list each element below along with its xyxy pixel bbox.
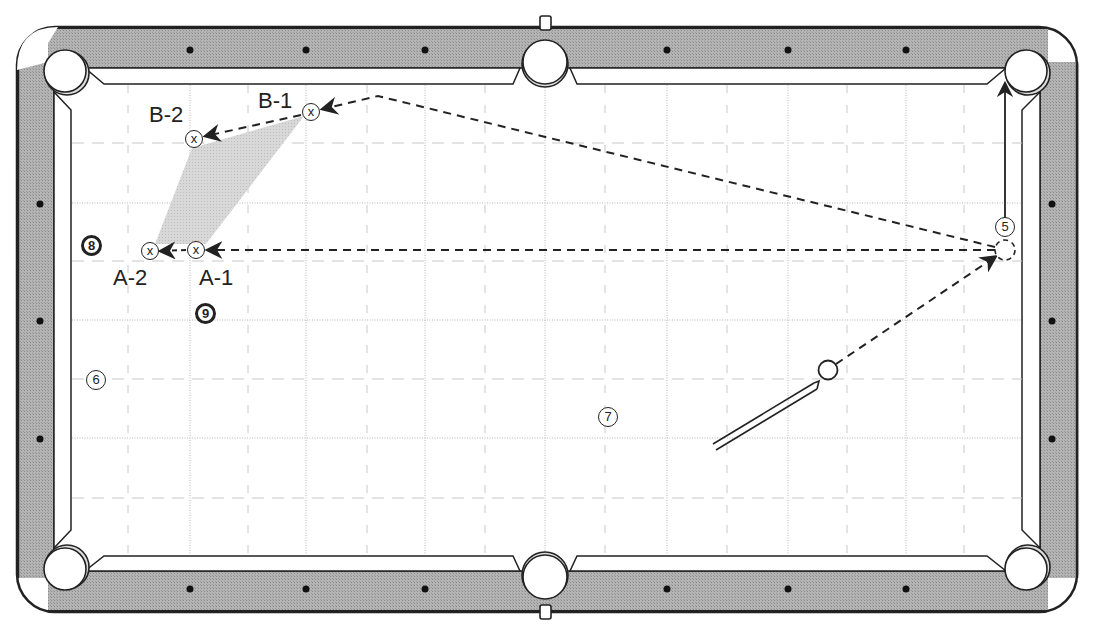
label-b1: B-1 [258,90,292,112]
path-a1-to-a2 [161,250,186,251]
pocket-bottom-left-icon [44,545,89,590]
label-a1: A-1 [199,267,233,289]
target-b2-marker: x [185,130,203,148]
label-a2: A-2 [113,267,147,289]
ball-6: 6 [86,370,106,390]
target-a2-marker: x [141,242,159,260]
label-b2: B-2 [149,104,183,126]
ball-8: 8 [81,235,102,256]
left-rail [18,62,54,578]
cushion-top-right [570,68,1006,84]
billiards-diagram: 5 6 7 8 9 x x x x A-1 A-2 B-1 B-2 [0,0,1094,624]
table-svg [0,0,1094,624]
right-rail [1040,62,1077,578]
cushion-bottom-right [570,556,1006,571]
target-b1-marker: x [302,103,320,121]
cushion-top-left [85,68,520,84]
pocket-top-right-icon [1005,50,1050,95]
pocket-top-left-icon [44,50,89,95]
ghost-ball [995,240,1015,260]
ball-7: 7 [598,407,618,427]
ball-9: 9 [195,303,216,324]
ball-5: 5 [995,217,1015,237]
pocket-bottom-right-icon [1005,545,1050,590]
cushion-left [54,92,71,548]
cue-ball [819,361,838,380]
target-a1-marker: x [187,241,205,259]
cushion-bottom-left [85,556,520,571]
cushion-right [1022,92,1040,548]
